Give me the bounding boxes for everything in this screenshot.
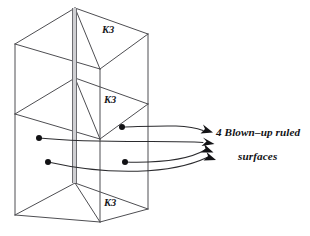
mid-roof-edge-front: [75, 78, 100, 139]
connector-curve-3: [125, 150, 205, 162]
top-rim-front-right: [100, 34, 148, 69]
bot-roof-edge-front: [75, 183, 100, 222]
arrowhead-4: [204, 152, 217, 161]
bot-rim-left-front: [15, 215, 100, 222]
node-right-upper: [119, 124, 125, 130]
spine-band: [73, 8, 76, 183]
k3-bottom-component: K3: [15, 183, 148, 222]
connector-curve-2: [39, 138, 203, 143]
top-rim-left-front: [15, 44, 100, 69]
k3-label-top: K3: [101, 24, 114, 35]
node-right-lower: [122, 159, 128, 165]
mid-roof-edge-left: [15, 78, 75, 114]
degeneration-diagram: K3 K3 K3: [0, 0, 310, 236]
connector-group: [39, 125, 216, 172]
arrowhead-1: [201, 125, 214, 134]
connector-curve-4: [48, 158, 207, 172]
arrowhead-2: [202, 138, 215, 147]
node-left-upper: [36, 135, 42, 141]
figure-canvas: K3 K3 K3: [0, 0, 310, 236]
mid-rim-front-right: [100, 104, 148, 139]
node-left-lower: [45, 159, 51, 165]
bot-rim-front-right: [100, 209, 148, 222]
k3-middle-component: K3: [15, 78, 148, 222]
caption-line-1: 4 Blown–up ruled: [216, 126, 300, 138]
k3-label-middle: K3: [103, 94, 116, 105]
connector-curve-1: [122, 126, 203, 131]
central-spine: [73, 8, 77, 183]
k3-label-bottom: K3: [103, 197, 116, 208]
mid-rim-left-front: [15, 114, 100, 139]
bot-roof-edge-left: [15, 183, 75, 215]
node-group: [36, 124, 128, 165]
top-roof-edge-front: [75, 8, 100, 69]
caption-line-2: surfaces: [238, 150, 277, 162]
top-roof-edge-left: [15, 8, 75, 44]
